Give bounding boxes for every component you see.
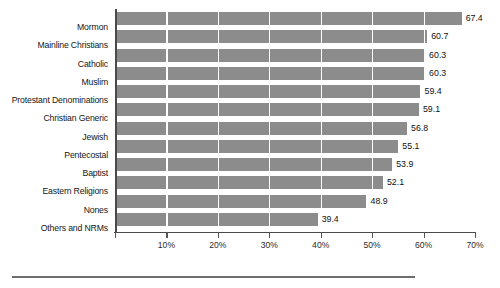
bar-row [115,103,475,116]
bar-row [115,213,475,226]
category-label: Muslim [81,76,108,89]
category-label: Protestant Denominations [12,94,108,107]
bar [115,30,427,43]
x-axis-tick-label: 50% [364,240,381,250]
bar [115,158,392,171]
x-axis-line [114,232,475,233]
x-axis-tick [218,232,219,238]
bar-row [115,49,475,62]
bar-row [115,195,475,208]
bar [115,103,419,116]
x-axis-tick-label: 40% [312,240,329,250]
plot-area: 10%20%30%40%50%60%70%67.460.760.360.359.… [115,9,475,232]
gridline [475,9,476,232]
category-label: Pentecostal [64,149,108,162]
x-axis-tick-label: 60% [415,240,432,250]
bar-value-label: 39.4 [322,213,339,226]
bar-value-label: 60.7 [431,30,448,43]
bar [115,195,366,208]
category-label: Baptist [82,167,108,180]
bar-value-label: 55.1 [402,140,419,153]
bar-row [115,30,475,43]
x-axis-tick-label: 20% [209,240,226,250]
x-axis-tick [321,232,322,238]
x-axis-tick [475,232,476,238]
horizontal-bar-chart: MormonMainline ChristiansCatholicMuslimP… [0,0,500,288]
x-axis-tick-label: 10% [158,240,175,250]
category-label: Christian Generic [43,112,108,125]
x-axis-tick [166,232,167,238]
bar-value-label: 60.3 [429,49,446,62]
gridline [321,9,322,232]
bar-row [115,176,475,189]
bar-value-label: 59.4 [424,85,441,98]
x-axis-tick [269,232,270,238]
gridline [424,9,425,232]
bar-row [115,85,475,98]
bar-value-label: 53.9 [396,158,413,171]
x-axis-tick [424,232,425,238]
bar-value-label: 59.1 [423,103,440,116]
bar-value-label: 56.8 [411,122,428,135]
bar-row [115,67,475,80]
category-label: Mainline Christians [37,39,108,52]
bar-row [115,140,475,153]
category-label: Nones [84,204,108,217]
x-axis-tick-origin [115,232,116,238]
bar [115,176,383,189]
category-label: Jewish [82,131,108,144]
y-axis-line [115,9,117,232]
bar-value-label: 60.3 [429,67,446,80]
bar-value-label: 67.4 [466,12,483,25]
bar [115,85,420,98]
bar-value-label: 48.9 [370,195,387,208]
gridline [166,9,167,232]
bar [115,122,407,135]
gridline [218,9,219,232]
gridline [269,9,270,232]
x-axis-tick-label: 30% [261,240,278,250]
bar-row [115,12,475,25]
bar-row [115,158,475,171]
bar [115,140,398,153]
category-label: Others and NRMs [41,222,108,235]
bar-value-label: 52.1 [387,176,404,189]
category-label: Catholic [78,58,108,71]
x-axis-tick [372,232,373,238]
x-axis-tick-label: 70% [466,240,483,250]
footer-divider [12,276,415,278]
category-label: Mormon [77,21,108,34]
category-label: Eastern Religions [42,185,108,198]
bar [115,213,318,226]
